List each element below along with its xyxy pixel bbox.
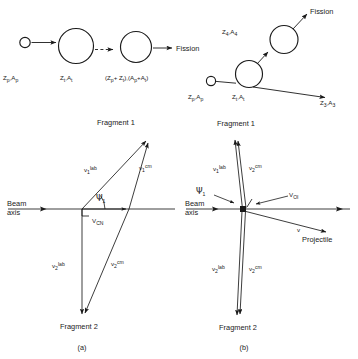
svg-text:v2lab: v2lab bbox=[212, 264, 225, 274]
beam-axis-label-a: Beam axis bbox=[7, 199, 26, 217]
target-label-left: Zt,At bbox=[60, 74, 73, 83]
label-psi-a: Ψ1 bbox=[96, 193, 106, 204]
svg-text:Beam: Beam bbox=[185, 199, 204, 208]
svg-text:VCN: VCN bbox=[92, 217, 104, 226]
figure-svg: Fission Zp,Ap Zt,At (Zp+ Zt),(Ap+At) Fis… bbox=[0, 0, 358, 359]
projectile-label-right: Zp,Ap bbox=[188, 93, 204, 102]
right-angle-marker-a bbox=[82, 209, 89, 216]
label-v1cm-b: v2cm bbox=[249, 163, 262, 173]
figure-container: Fission Zp,Ap Zt,At (Zp+ Zt),(Ap+At) Fis… bbox=[0, 0, 358, 359]
vector-v2cm-b bbox=[240, 211, 246, 314]
panel-b-caption: (b) bbox=[240, 343, 249, 352]
fission-label-left: Fission bbox=[176, 44, 199, 53]
svg-text:axis: axis bbox=[7, 208, 20, 217]
fragment1-label-b: Fragment 1 bbox=[217, 119, 255, 128]
label-v1lab-a: v1lab bbox=[84, 165, 97, 175]
target-circle-right bbox=[236, 61, 263, 88]
svg-text:v2cm: v2cm bbox=[249, 264, 262, 274]
beam-axis-label-b: Beam axis bbox=[185, 199, 204, 217]
vector-v1lab-a bbox=[82, 141, 146, 209]
vector-v1cm-a bbox=[129, 143, 148, 209]
panel-b: Beam axis Fragment 1 Fragment 2 v1lab v2… bbox=[185, 119, 350, 352]
reaction-scheme-fusion: Fission Zp,Ap Zt,At (Zp+ Zt),(Ap+At) bbox=[3, 29, 199, 83]
projectile-circle-right bbox=[206, 76, 215, 85]
svg-text:v: v bbox=[297, 226, 301, 233]
panel-a-caption: (a) bbox=[78, 343, 87, 352]
vector-v1cm-b bbox=[238, 141, 246, 208]
compound-nucleus-circle bbox=[121, 32, 152, 63]
svg-text:Z3,A3: Z3,A3 bbox=[320, 99, 336, 108]
ejectile-label: Z3,A3 bbox=[320, 99, 336, 108]
svg-text:axis: axis bbox=[185, 208, 198, 217]
label-v1lab-b: v1lab bbox=[213, 164, 226, 174]
label-v2cm-a: v2cm bbox=[111, 259, 124, 269]
psi-leader-b bbox=[214, 195, 234, 203]
projectile-path-right bbox=[216, 81, 236, 83]
svg-text:Beam: Beam bbox=[7, 199, 26, 208]
svg-text:Projectile: Projectile bbox=[302, 235, 332, 244]
compound-nucleus-label: (Zp+ Zt),(Ap+At) bbox=[105, 74, 148, 83]
svg-text:v2cm: v2cm bbox=[249, 163, 262, 173]
svg-text:Ψ1: Ψ1 bbox=[196, 186, 206, 197]
vector-projectile-b bbox=[246, 212, 326, 233]
svg-text:Zp,Ap: Zp,Ap bbox=[3, 74, 19, 83]
label-v2cm-b: v2cm bbox=[249, 264, 262, 274]
panel-a: Beam axis Fragment 1 Fragment 2 v1lab v1… bbox=[7, 118, 175, 352]
voi-leader-b bbox=[256, 196, 288, 204]
vector-voi-b bbox=[247, 199, 252, 207]
svg-text:Zt,At: Zt,At bbox=[60, 74, 73, 83]
svg-text:VOI: VOI bbox=[289, 191, 299, 200]
svg-text:Zp,Ap: Zp,Ap bbox=[188, 93, 204, 102]
projectile-label-left: Zp,Ap bbox=[3, 74, 19, 83]
label-v1cm-a: v1cm bbox=[139, 163, 152, 173]
fragment2-label-b: Fragment 2 bbox=[219, 323, 257, 332]
label-vcn-a: VCN bbox=[92, 217, 104, 226]
transfer-arrow bbox=[257, 52, 268, 64]
fission-label-right: Fission bbox=[310, 7, 333, 16]
svg-text:v2cm: v2cm bbox=[111, 259, 124, 269]
svg-text:v1lab: v1lab bbox=[213, 164, 226, 174]
svg-text:v1cm: v1cm bbox=[139, 163, 152, 173]
svg-text:(Zp+ Zt),(Ap+At): (Zp+ Zt),(Ap+At) bbox=[105, 74, 148, 83]
label-v2lab-b: v2lab bbox=[212, 264, 225, 274]
vector-v2lab-b bbox=[237, 211, 242, 315]
svg-text:Zt,At: Zt,At bbox=[232, 93, 245, 102]
fragment2-label-a: Fragment 2 bbox=[60, 322, 98, 331]
fissioning-nucleus-circle bbox=[270, 26, 298, 54]
reaction-scheme-transfer: Fission Z4,A4 Zp,Ap Zt,At Z3,A3 bbox=[188, 7, 336, 108]
target-label-right: Zt,At bbox=[232, 93, 245, 102]
svg-text:Z4,A4: Z4,A4 bbox=[222, 28, 238, 37]
fragment1-label-a: Fragment 1 bbox=[97, 118, 135, 127]
label-psi-b: Ψ1 bbox=[196, 186, 206, 197]
svg-text:Ψ1: Ψ1 bbox=[96, 193, 106, 204]
fission-arrow-right bbox=[293, 14, 307, 29]
ejectile-arrow bbox=[253, 87, 325, 98]
svg-text:v1lab: v1lab bbox=[84, 165, 97, 175]
label-voi-b: VOI bbox=[289, 191, 299, 200]
fissioning-nucleus-label: Z4,A4 bbox=[222, 28, 238, 37]
svg-text:v2lab: v2lab bbox=[52, 261, 65, 271]
projectile-circle-left bbox=[20, 37, 30, 47]
target-circle-left bbox=[59, 29, 94, 64]
label-v2lab-a: v2lab bbox=[52, 261, 65, 271]
